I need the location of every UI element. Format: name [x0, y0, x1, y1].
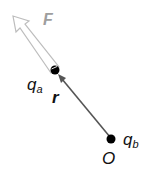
- charge-b-label: qb: [123, 130, 139, 150]
- r-vector-arrow: [58, 74, 110, 137]
- charge-a-label: qa: [27, 75, 43, 95]
- origin-label: O: [102, 149, 115, 168]
- force-label: F: [43, 11, 54, 28]
- r-vector-label: r: [52, 88, 60, 107]
- charge-a-dot: [51, 66, 60, 75]
- charge-b-dot: [107, 135, 116, 144]
- coulomb-force-diagram: F qa r qb O: [0, 0, 153, 176]
